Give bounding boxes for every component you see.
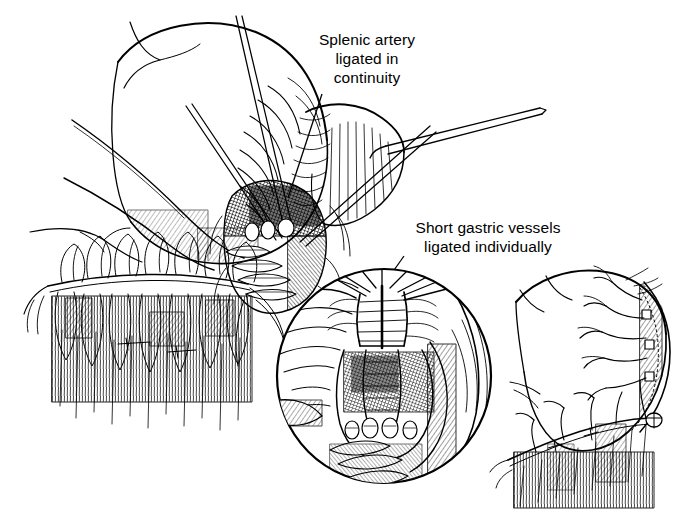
label-short-gastric-vessels: Short gastric vessels ligated individual… — [378, 218, 598, 256]
label-splenic-artery: Splenic artery ligated in continuity — [262, 30, 472, 87]
illustration-canvas: Splenic artery ligated in continuity Sho… — [0, 0, 700, 521]
